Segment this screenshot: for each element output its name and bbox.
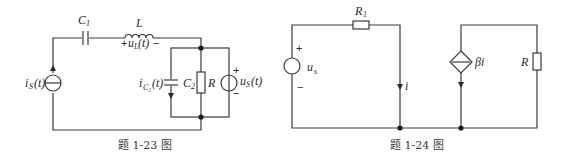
circuit-diagrams: C 1 L + u L (t) − i S (t) C [0, 0, 565, 160]
inductor-l: L + u L (t) − [121, 16, 159, 51]
resistor-r: R [520, 53, 541, 70]
svg-text:1: 1 [86, 19, 90, 28]
node-dot [198, 45, 203, 50]
svg-text:+: + [296, 42, 302, 54]
svg-text:i: i [405, 79, 408, 93]
svg-text:−: − [153, 37, 159, 49]
node-dot [458, 125, 463, 130]
arrow-up-icon [50, 65, 56, 71]
wire-r1-down [369, 25, 400, 128]
l-label: L [135, 16, 143, 30]
resistor-icon [533, 53, 541, 70]
wire-l-to-node [153, 38, 201, 48]
svg-text:+: + [233, 64, 239, 76]
wire-left-top [53, 38, 82, 73]
svg-text:−: − [233, 87, 239, 99]
svg-text:(t): (t) [34, 76, 45, 90]
capacitor-c1: C 1 [78, 13, 90, 46]
voltage-source-us: + − u S (t) [221, 64, 262, 99]
svg-text:−: − [297, 81, 303, 93]
svg-text:u: u [307, 60, 313, 74]
resistor-icon [353, 21, 369, 29]
svg-text:βi: βi [474, 55, 484, 69]
svg-text:S: S [29, 82, 33, 91]
svg-text:(t): (t) [138, 36, 149, 50]
wire-bottom [53, 93, 201, 130]
svg-text:s: s [314, 67, 317, 76]
svg-text:R: R [354, 4, 363, 18]
current-source-is: i S (t) [25, 65, 61, 91]
caption-1-23: 题 1-23 图 [118, 139, 172, 152]
svg-text:C₂: C₂ [143, 83, 151, 92]
resistor-r1: R 1 [353, 4, 369, 29]
resistor-r: R [197, 72, 216, 93]
arrow-down-icon [458, 82, 464, 88]
arrow-down-icon [397, 84, 403, 90]
dependent-current-source: βi [450, 51, 484, 88]
caption-1-24: 题 1-24 图 [390, 139, 444, 152]
svg-text:S: S [246, 80, 250, 89]
wire-loop [292, 25, 537, 128]
node-dot [397, 125, 402, 130]
node-dot [198, 114, 203, 119]
svg-text:(t): (t) [251, 74, 262, 88]
figure-1-23: C 1 L + u L (t) − i S (t) C [25, 13, 262, 152]
svg-text:+: + [121, 37, 127, 49]
svg-text:i: i [139, 76, 142, 90]
svg-text:1: 1 [363, 10, 367, 19]
current-i: i [397, 79, 408, 93]
svg-text:(t): (t) [152, 76, 163, 90]
svg-text:R: R [207, 76, 216, 90]
voltage-source-us: + − u s [284, 42, 317, 93]
svg-text:i: i [25, 76, 28, 90]
svg-text:2: 2 [191, 82, 195, 91]
voltage-source-icon [284, 58, 300, 74]
capacitor-c2: C 2 i C₂ (t) [139, 76, 195, 99]
resistor-icon [197, 72, 205, 93]
arrow-down-icon [168, 93, 174, 99]
svg-text:R: R [520, 55, 529, 69]
figure-1-24: R 1 + − u s i βi R 题 [284, 4, 541, 152]
